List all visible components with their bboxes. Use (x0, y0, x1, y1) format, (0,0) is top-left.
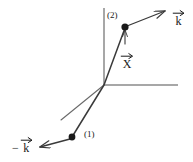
k-negative-arrow (40, 139, 70, 147)
point-1-label: (1) (84, 130, 95, 139)
vector-overbar-icon (172, 9, 185, 16)
k-negative-symbol-stack: k (20, 136, 33, 154)
point-2-label: (2) (107, 11, 118, 20)
vector-overbar-icon (120, 52, 134, 59)
vector-diagram: (1) (2) k − k (0, 0, 193, 162)
trajectory-path (72, 28, 125, 137)
k-symbol: k (20, 143, 33, 154)
k-negative-label: − k (12, 136, 33, 154)
point-2-dot (121, 23, 128, 30)
point-1-dot (69, 134, 76, 141)
k-symbol: k (172, 16, 185, 27)
x-symbol: X (120, 59, 134, 70)
k-positive-arrow (127, 11, 165, 26)
k-positive-label: k (172, 9, 185, 27)
vector-overbar-icon (20, 136, 33, 143)
minus-sign: − (12, 143, 20, 154)
x-vector-label: X (120, 52, 134, 70)
secondary-ray (61, 85, 104, 120)
